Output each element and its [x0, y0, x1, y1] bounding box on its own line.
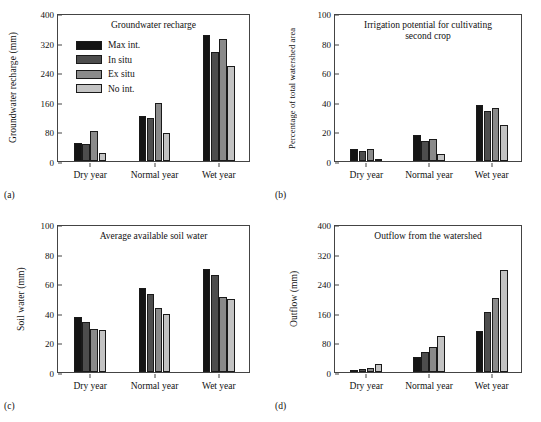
bar: [99, 330, 107, 372]
bar: [163, 314, 171, 372]
panel-a-ytick-label: 320: [41, 40, 59, 50]
panel-b-ytick-mark: [335, 163, 339, 164]
panel-c-category-label: Dry year: [73, 381, 107, 391]
panel-d-category-label: Dry year: [350, 381, 384, 391]
bar: [211, 275, 219, 372]
bar: [350, 370, 358, 372]
panel-d-ytick-label: 400: [318, 221, 336, 231]
panel-b-ytick-label: 100: [318, 10, 336, 20]
bar: [437, 154, 445, 161]
panel-d-ytick-mark: [335, 285, 339, 286]
panel-a-category-label: Normal year: [131, 170, 179, 180]
panel-d-ytick-mark: [335, 374, 339, 375]
panel-c: Soil water (mm) Average available soil w…: [0, 205, 271, 422]
bar: [476, 105, 484, 161]
bar: [359, 151, 367, 161]
bar: [413, 135, 421, 161]
panel-b-category-label: Wet year: [475, 170, 509, 180]
panel-c-letter: (c): [4, 401, 15, 411]
bar: [219, 297, 227, 372]
panel-a-ytick-mark: [58, 163, 62, 164]
panel-c-ytick-label: 100: [41, 221, 59, 231]
panel-b-ytick-mark: [335, 44, 339, 45]
panel-c-plot-area: Average available soil water 02040608010…: [57, 225, 250, 373]
panel-b-ytick-mark: [335, 74, 339, 75]
bar: [155, 103, 163, 161]
panel-b-ytick-label: 20: [322, 128, 335, 138]
bar: [429, 139, 437, 161]
panel-c-ytick-label: 40: [45, 310, 58, 320]
bar: [375, 159, 383, 161]
panel-d-bars: [335, 226, 521, 372]
panel-c-ytick-mark: [58, 226, 62, 227]
panel-d-category-tick: [429, 374, 430, 378]
panel-b-ytick-label: 0: [327, 158, 336, 168]
panel-d-ytick-label: 80: [322, 339, 335, 349]
bar: [476, 331, 484, 372]
bar: [219, 39, 227, 161]
bar: [227, 66, 235, 161]
panel-b-plot-area: Irrigation potential for cultivating sec…: [334, 14, 522, 162]
panel-d-category-label: Normal year: [405, 381, 453, 391]
panel-d-ytick-label: 0: [327, 369, 336, 379]
panel-b-ytick-label: 40: [322, 99, 335, 109]
panel-c-y-axis-label: Soil water (mm): [14, 225, 28, 373]
panel-a: Groundwater recharge (mm) Groundwater re…: [0, 0, 271, 211]
bar: [437, 336, 445, 372]
panel-a-category-tick: [90, 163, 91, 167]
bar: [147, 294, 155, 372]
panel-c-ytick-mark: [58, 314, 62, 315]
panel-a-ytick-mark: [58, 44, 62, 45]
panel-a-ytick-label: 160: [41, 99, 59, 109]
panel-c-ytick-mark: [58, 255, 62, 256]
panel-c-category-tick: [154, 374, 155, 378]
bar: [139, 116, 147, 162]
bar: [82, 144, 90, 161]
bar: [203, 35, 211, 161]
figure-panel-grid: Groundwater recharge (mm) Groundwater re…: [0, 0, 541, 422]
panel-c-ytick-mark: [58, 344, 62, 345]
panel-c-ytick-label: 20: [45, 339, 58, 349]
panel-b-category-label: Dry year: [350, 170, 384, 180]
panel-d-category-tick: [491, 374, 492, 378]
bar: [155, 308, 163, 372]
panel-b-ytick-mark: [335, 133, 339, 134]
panel-a-ytick-label: 0: [50, 158, 59, 168]
panel-b-ytick-mark: [335, 15, 339, 16]
panel-d-ytick-label: 240: [318, 280, 336, 290]
panel-c-ytick-mark: [58, 374, 62, 375]
bar: [90, 131, 98, 161]
bar: [367, 368, 375, 372]
panel-d-ytick-mark: [335, 226, 339, 227]
bar: [99, 153, 107, 162]
panel-c-bars: [58, 226, 249, 372]
panel-d: Outflow (mm) Outflow from the watershed …: [271, 205, 541, 422]
bar: [421, 352, 429, 372]
panel-a-bars: [58, 15, 249, 161]
panel-a-ytick-mark: [58, 74, 62, 75]
panel-a-category-tick: [154, 163, 155, 167]
panel-d-ytick-label: 320: [318, 251, 336, 261]
panel-c-ytick-label: 60: [45, 280, 58, 290]
panel-a-ytick-mark: [58, 15, 62, 16]
panel-b-ytick-label: 80: [322, 40, 335, 50]
panel-b-y-axis-label: Percentage of total watershed area: [285, 14, 299, 162]
bar: [82, 322, 90, 372]
bar: [350, 149, 358, 161]
bar: [211, 52, 219, 161]
panel-c-category-tick: [218, 374, 219, 378]
bar: [492, 108, 500, 161]
panel-c-ytick-label: 80: [45, 251, 58, 261]
bar: [429, 347, 437, 372]
bar: [139, 288, 147, 372]
panel-b-category-tick: [366, 163, 367, 167]
panel-d-ytick-mark: [335, 344, 339, 345]
panel-c-ytick-mark: [58, 285, 62, 286]
panel-d-ytick-label: 160: [318, 310, 336, 320]
panel-a-ytick-label: 240: [41, 69, 59, 79]
bar: [147, 118, 155, 161]
bar: [203, 269, 211, 372]
panel-b-letter: (b): [275, 190, 286, 200]
panel-b-ytick-label: 60: [322, 69, 335, 79]
bar: [500, 270, 508, 372]
